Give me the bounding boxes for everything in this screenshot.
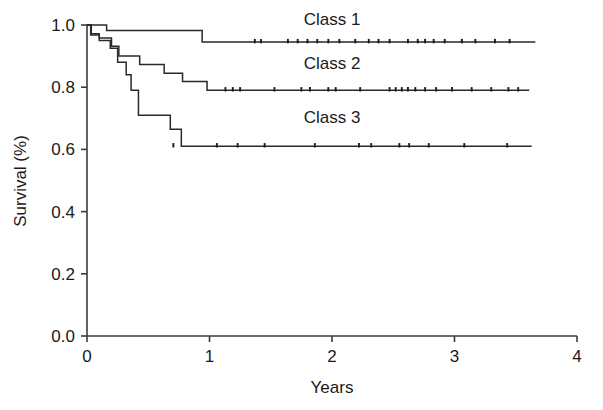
x-tick-label: 3 bbox=[450, 347, 459, 366]
x-tick-label: 0 bbox=[82, 347, 91, 366]
x-tick-label: 1 bbox=[205, 347, 214, 366]
x-axis-title: Years bbox=[311, 378, 354, 397]
x-axis-ticks: 01234 bbox=[82, 336, 581, 366]
y-tick-label: 0.0 bbox=[51, 327, 75, 346]
series-label-2: Class 2 bbox=[304, 54, 361, 73]
km-curve-3 bbox=[87, 25, 532, 146]
survival-chart: 0.00.20.40.60.81.0 01234 Class 1Class 2C… bbox=[0, 0, 603, 410]
y-axis-title: Survival (%) bbox=[11, 135, 30, 227]
series-labels-group: Class 1Class 2Class 3 bbox=[304, 10, 361, 127]
y-tick-label: 0.4 bbox=[51, 203, 75, 222]
y-tick-label: 0.8 bbox=[51, 78, 75, 97]
y-axis-ticks: 0.00.20.40.60.81.0 bbox=[51, 16, 87, 346]
km-curves-group bbox=[87, 25, 535, 146]
y-tick-label: 1.0 bbox=[51, 16, 75, 35]
y-tick-label: 0.6 bbox=[51, 140, 75, 159]
x-tick-label: 2 bbox=[327, 347, 336, 366]
series-label-3: Class 3 bbox=[304, 108, 361, 127]
y-tick-label: 0.2 bbox=[51, 265, 75, 284]
series-label-1: Class 1 bbox=[304, 10, 361, 29]
x-tick-label: 4 bbox=[572, 347, 581, 366]
chart-page: 0.00.20.40.60.81.0 01234 Class 1Class 2C… bbox=[0, 0, 603, 410]
